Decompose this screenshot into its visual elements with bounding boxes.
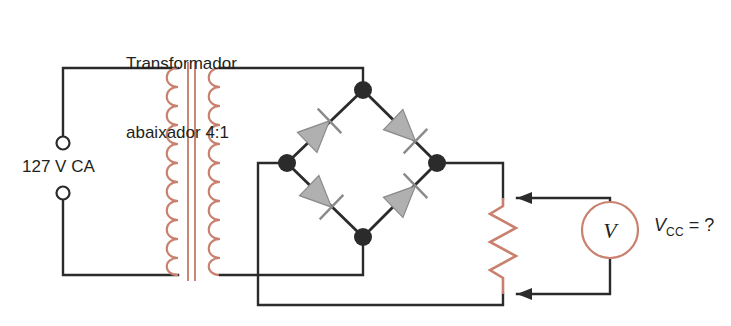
source-terminal-top <box>57 137 70 150</box>
bridge-node-top <box>354 81 372 99</box>
circuit-diagram: V Transformador abaixador 4:1 127 V CA V… <box>0 0 731 326</box>
transformer-title-line2: abaixador 4:1 <box>126 121 237 144</box>
ac-source-label: 127 V CA <box>22 157 95 177</box>
bridge-node-bottom <box>354 228 372 246</box>
circuit-schematic: V <box>0 0 731 326</box>
vcc-equals: = ? <box>684 215 715 235</box>
arrow-head-bottom <box>517 288 532 300</box>
vcc-variable: V <box>654 215 666 235</box>
source-terminal-bottom <box>57 187 70 200</box>
load-resistor-icon <box>490 198 516 294</box>
transformer-title-line1: Transformador <box>126 52 237 75</box>
output-wiring <box>258 163 503 305</box>
secondary-to-bridge-wiring <box>220 68 363 275</box>
vcc-subscript: CC <box>666 225 684 239</box>
transformer-title: Transformador abaixador 4:1 <box>126 6 237 190</box>
vcc-question-label: VCC = ? <box>654 215 714 239</box>
bridge-rectifier <box>278 81 446 246</box>
arrow-head-top <box>517 192 532 204</box>
